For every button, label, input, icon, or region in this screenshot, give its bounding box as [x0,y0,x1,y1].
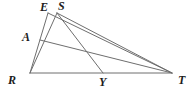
segment-group [30,13,172,73]
segment-ST [57,13,172,73]
segment-RE [30,13,48,73]
vertex-label-R: R [8,74,16,86]
segment-ET [48,13,172,73]
vertex-label-T: T [178,74,185,86]
vertex-label-S: S [58,0,65,12]
segment-AT [40,40,172,73]
geometry-figure: E S A R Y T [0,0,195,96]
vertex-label-Y: Y [99,76,106,88]
geometry-canvas [0,0,195,96]
segment-SY [57,13,103,73]
vertex-label-E: E [40,1,48,13]
vertex-label-A: A [22,31,30,43]
